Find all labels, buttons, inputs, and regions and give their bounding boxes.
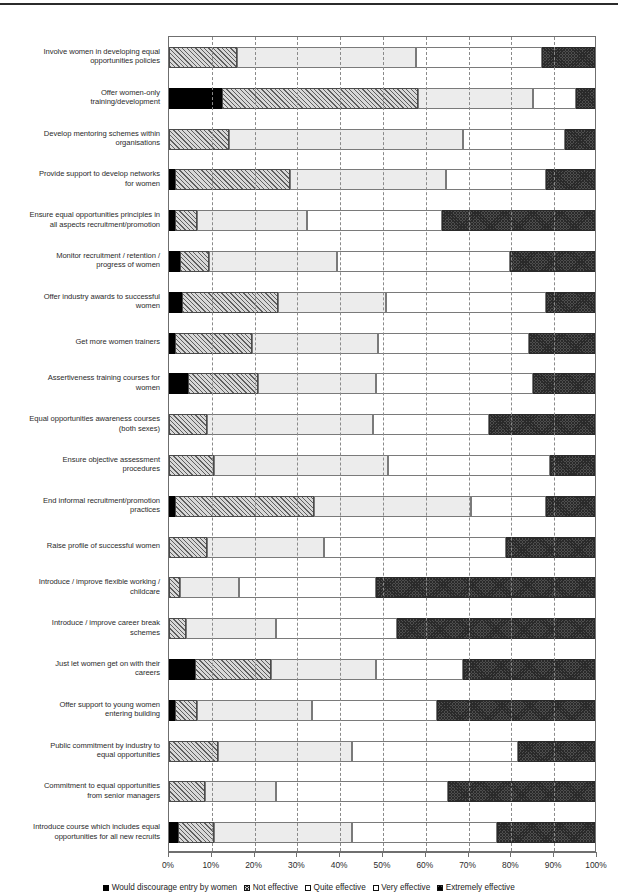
bar-segment[interactable] bbox=[169, 455, 214, 476]
bar-segment[interactable] bbox=[276, 781, 449, 802]
stacked-bar[interactable] bbox=[169, 292, 595, 313]
bar-segment[interactable] bbox=[169, 129, 229, 150]
bar-segment[interactable] bbox=[489, 414, 596, 435]
bar-segment[interactable] bbox=[376, 373, 534, 394]
stacked-bar[interactable] bbox=[169, 373, 595, 394]
bar-segment[interactable] bbox=[169, 292, 182, 313]
bar-segment[interactable] bbox=[178, 822, 214, 843]
bar-segment[interactable] bbox=[290, 169, 446, 190]
bar-segment[interactable] bbox=[169, 47, 237, 68]
bar-segment[interactable] bbox=[237, 47, 416, 68]
bar-segment[interactable] bbox=[214, 455, 389, 476]
bar-segment[interactable] bbox=[180, 577, 240, 598]
bar-segment[interactable] bbox=[169, 373, 188, 394]
bar-segment[interactable] bbox=[314, 496, 472, 517]
bar-segment[interactable] bbox=[418, 88, 533, 109]
bar-segment[interactable] bbox=[463, 659, 595, 680]
stacked-bar[interactable] bbox=[169, 781, 595, 802]
stacked-bar[interactable] bbox=[169, 414, 595, 435]
legend-item[interactable]: Very effective bbox=[373, 883, 431, 892]
bar-segment[interactable] bbox=[373, 414, 488, 435]
bar-segment[interactable] bbox=[446, 169, 546, 190]
bar-segment[interactable] bbox=[510, 251, 595, 272]
bar-segment[interactable] bbox=[175, 210, 196, 231]
bar-segment[interactable] bbox=[239, 577, 375, 598]
stacked-bar[interactable] bbox=[169, 618, 595, 639]
legend-item[interactable]: Quite effective bbox=[305, 883, 366, 892]
stacked-bar[interactable] bbox=[169, 251, 595, 272]
bar-segment[interactable] bbox=[195, 659, 272, 680]
bar-segment[interactable] bbox=[169, 537, 207, 558]
stacked-bar[interactable] bbox=[169, 129, 595, 150]
bar-segment[interactable] bbox=[376, 577, 595, 598]
stacked-bar[interactable] bbox=[169, 210, 595, 231]
stacked-bar[interactable] bbox=[169, 700, 595, 721]
bar-segment[interactable] bbox=[324, 537, 505, 558]
bar-segment[interactable] bbox=[207, 537, 324, 558]
bar-segment[interactable] bbox=[576, 88, 595, 109]
bar-segment[interactable] bbox=[197, 210, 308, 231]
bar-segment[interactable] bbox=[169, 88, 222, 109]
bar-segment[interactable] bbox=[180, 251, 210, 272]
bar-segment[interactable] bbox=[169, 618, 186, 639]
bar-segment[interactable] bbox=[312, 700, 438, 721]
stacked-bar[interactable] bbox=[169, 822, 595, 843]
bar-segment[interactable] bbox=[352, 741, 518, 762]
stacked-bar[interactable] bbox=[169, 537, 595, 558]
bar-segment[interactable] bbox=[175, 169, 290, 190]
stacked-bar[interactable] bbox=[169, 741, 595, 762]
stacked-bar[interactable] bbox=[169, 169, 595, 190]
bar-segment[interactable] bbox=[205, 781, 275, 802]
legend-item[interactable]: Extremely effective bbox=[437, 883, 515, 892]
bar-segment[interactable] bbox=[471, 496, 546, 517]
bar-segment[interactable] bbox=[271, 659, 375, 680]
bar-segment[interactable] bbox=[448, 781, 595, 802]
bar-segment[interactable] bbox=[169, 781, 205, 802]
bar-segment[interactable] bbox=[352, 822, 497, 843]
stacked-bar[interactable] bbox=[169, 496, 595, 517]
bar-segment[interactable] bbox=[252, 333, 378, 354]
legend-item[interactable]: Not effective bbox=[244, 883, 298, 892]
bar-segment[interactable] bbox=[533, 373, 595, 394]
bar-segment[interactable] bbox=[337, 251, 510, 272]
bar-segment[interactable] bbox=[378, 333, 529, 354]
bar-segment[interactable] bbox=[437, 700, 595, 721]
bar-segment[interactable] bbox=[307, 210, 441, 231]
bar-segment[interactable] bbox=[175, 333, 252, 354]
bar-segment[interactable] bbox=[278, 292, 387, 313]
stacked-bar[interactable] bbox=[169, 455, 595, 476]
bar-segment[interactable] bbox=[209, 251, 337, 272]
stacked-bar[interactable] bbox=[169, 659, 595, 680]
bar-segment[interactable] bbox=[169, 251, 180, 272]
bar-segment[interactable] bbox=[518, 741, 595, 762]
stacked-bar[interactable] bbox=[169, 577, 595, 598]
bar-segment[interactable] bbox=[182, 292, 278, 313]
bar-segment[interactable] bbox=[550, 455, 595, 476]
bar-segment[interactable] bbox=[207, 414, 373, 435]
stacked-bar[interactable] bbox=[169, 333, 595, 354]
bar-segment[interactable] bbox=[188, 373, 258, 394]
bar-segment[interactable] bbox=[542, 47, 595, 68]
bar-segment[interactable] bbox=[463, 129, 565, 150]
bar-segment[interactable] bbox=[186, 618, 275, 639]
bar-segment[interactable] bbox=[169, 414, 207, 435]
bar-segment[interactable] bbox=[175, 700, 196, 721]
bar-segment[interactable] bbox=[506, 537, 595, 558]
bar-segment[interactable] bbox=[442, 210, 595, 231]
bar-segment[interactable] bbox=[175, 496, 313, 517]
bar-segment[interactable] bbox=[565, 129, 595, 150]
bar-segment[interactable] bbox=[258, 373, 375, 394]
bar-segment[interactable] bbox=[416, 47, 542, 68]
bar-segment[interactable] bbox=[169, 577, 180, 598]
bar-segment[interactable] bbox=[276, 618, 397, 639]
bar-segment[interactable] bbox=[169, 822, 178, 843]
bar-segment[interactable] bbox=[169, 659, 195, 680]
stacked-bar[interactable] bbox=[169, 47, 595, 68]
bar-segment[interactable] bbox=[376, 659, 463, 680]
legend-item[interactable]: Would discourage entry by women bbox=[103, 883, 237, 892]
bar-segment[interactable] bbox=[218, 741, 352, 762]
bar-segment[interactable] bbox=[229, 129, 463, 150]
bar-segment[interactable] bbox=[169, 741, 218, 762]
stacked-bar[interactable] bbox=[169, 88, 595, 109]
bar-segment[interactable] bbox=[222, 88, 418, 109]
